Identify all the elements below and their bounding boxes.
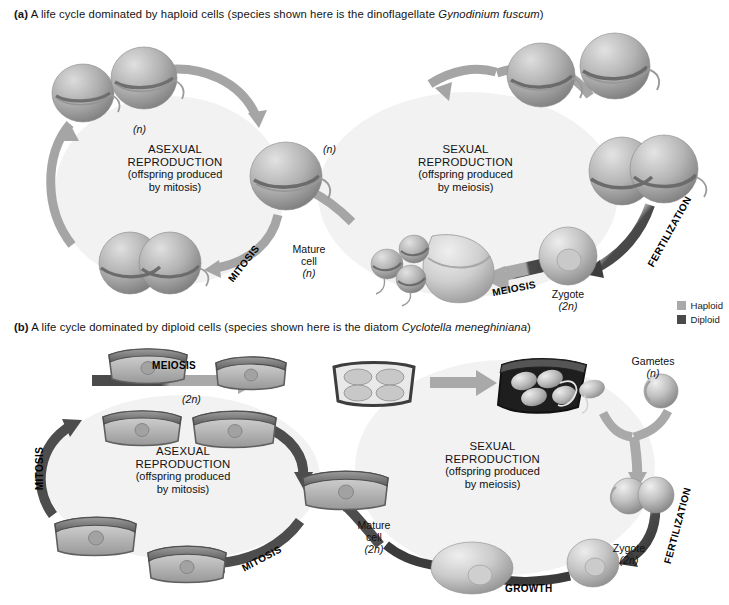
meiosis-products-a [370,228,510,308]
growth-stage-label-b: GROWTH [505,583,553,594]
sexual-line-3-a: (offspring produced [398,168,533,181]
zygote-a [538,226,600,288]
panel-b-diploid-life-cycle: (b) A life cycle dominated by diploid ce… [0,315,729,605]
diatom-cell-b-bottomleft [52,511,140,557]
sexual-reproduction-label-a: SEXUAL REPRODUCTION (offspring produced … [398,143,533,193]
panel-a-haploid-life-cycle: (a) A life cycle dominated by haploid ce… [0,0,729,315]
diatom-cell-b-top-2 [213,351,289,391]
grown-cell-b [430,540,516,598]
diatom-cell-b-bottommiddle [145,540,229,584]
zygote-annotation-a: Zygote (2n) [538,288,598,312]
legend-row-haploid: Haploid [677,300,723,312]
mature-cell-line1-b: Mature [345,519,403,531]
haploid-color-swatch [677,301,686,310]
mature-diploid-cell-b [300,465,392,511]
sexual-line-1-a: SEXUAL [398,143,533,156]
dividing-haploid-cell-a [98,228,208,300]
sexual-line-2-a: REPRODUCTION [398,156,533,169]
asexual-line-4-b: by mitosis) [118,483,248,496]
asexual-line-1-a: ASEXUAL [110,143,240,156]
mitosis-left-stage-label-b: MITOSIS [34,447,45,490]
haploid-legend-label: Haploid [690,300,723,312]
asexual-line-2-b: REPRODUCTION [118,458,248,471]
mature-cell-line1-a: Mature [280,243,338,255]
mature-cell-annotation-a: Mature cell (n) [280,243,338,279]
free-gamete-b [640,373,684,413]
ploidy-label-a-left: (n) [133,123,146,135]
zygote-ploidy-b: (2n) [600,554,658,566]
mature-cell-annotation-b: Mature cell (2n) [345,519,403,555]
fusing-gametes-b [608,475,678,517]
asexual-line-2-a: REPRODUCTION [110,156,240,169]
asexual-line-4-a: by mitosis) [110,181,240,194]
four-cell-pack-b [330,359,418,409]
asexual-line-3-a: (offspring produced [110,168,240,181]
asexual-line-1-b: ASEXUAL [118,445,248,458]
sexual-line-3-b: (offspring produced [425,465,560,478]
mature-cell-ploidy-b: (2n) [345,543,403,555]
mature-haploid-cell-a [248,140,330,216]
ploidy-label-a-right: (n) [323,143,336,155]
sexual-line-1-b: SEXUAL [425,440,560,453]
gametes-label-b: Gametes [622,355,684,367]
sexual-reproduction-label-b: SEXUAL REPRODUCTION (offspring produced … [425,440,560,490]
asexual-reproduction-label-a: ASEXUAL REPRODUCTION (offspring produced… [110,143,240,193]
asexual-reproduction-label-b: ASEXUAL REPRODUCTION (offspring produced… [118,445,248,495]
zygote-annotation-b: Zygote (2n) [600,542,658,566]
sexual-line-2-b: REPRODUCTION [425,453,560,466]
top-ploidy-label-b: (2n) [182,393,201,405]
mature-cell-ploidy-a: (n) [280,267,338,279]
mature-cell-line2-b: cell [345,531,403,543]
gametes-ploidy-b: (n) [622,367,684,379]
gametes-annotation-b: Gametes (n) [622,355,684,379]
meiosis-stage-label-b: MEIOSIS [152,360,196,371]
sexual-line-4-b: by meiosis) [425,478,560,491]
zygote-label-a: Zygote [538,288,598,300]
haploid-cell-a-topright-2 [578,32,658,104]
diatom-cell-b-row2-2 [190,405,280,449]
haploid-cell-a-topright-1 [505,42,581,112]
zygote-ploidy-a: (2n) [538,300,598,312]
sexual-line-4-a: by meiosis) [398,181,533,194]
gamete-release-pack-b [494,355,610,421]
mature-cell-line2-a: cell [280,255,338,267]
zygote-label-b: Zygote [600,542,658,554]
asexual-line-3-b: (offspring produced [118,470,248,483]
haploid-cell-a-topleft-2 [108,45,184,113]
diatom-cell-b-row2-1 [100,405,184,447]
